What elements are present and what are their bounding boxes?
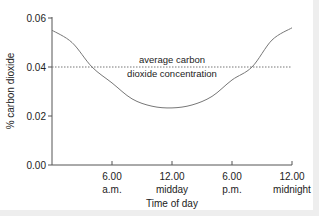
x-tick-label: p.m. (222, 184, 241, 195)
average-label-line1: average carbon (139, 54, 205, 65)
y-tick-label: 0.04 (27, 62, 47, 73)
x-tick-label: a.m. (102, 184, 121, 195)
x-tick-label: 12.00 (279, 171, 304, 182)
x-tick-label: 12.00 (159, 171, 184, 182)
y-axis-title: % carbon dioxide (5, 52, 16, 129)
y-tick-label: 0.06 (27, 13, 47, 24)
average-label-line2: dioxide concentration (127, 68, 217, 79)
y-ticks (48, 18, 52, 165)
x-tick-label: 6.00 (222, 171, 242, 182)
x-tick-label: midday (156, 184, 188, 195)
x-tick-label: 6.00 (102, 171, 122, 182)
x-tick-label: midnight (273, 184, 311, 195)
y-tick-label: 0.02 (27, 111, 47, 122)
co2-chart: 0.00 0.02 0.04 0.06 6.00 a.m. 12.00 midd… (0, 0, 319, 216)
x-axis-title: Time of day (146, 198, 198, 209)
x-ticks (112, 161, 292, 165)
y-tick-label: 0.00 (27, 160, 47, 171)
